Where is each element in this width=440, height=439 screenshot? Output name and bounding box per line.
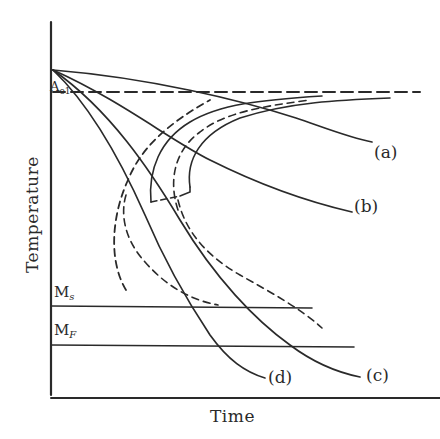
mf-line [51, 345, 354, 347]
curve-label-c: (c) [366, 367, 389, 384]
transformation-finish-curve-outer [114, 100, 210, 290]
y-axis-label: Temperature [24, 156, 41, 273]
curve-label-d: (d) [268, 369, 292, 386]
ms-label: Ms [54, 285, 75, 302]
x-axis-label: Time [210, 408, 255, 425]
ms-line [51, 306, 312, 308]
mf-label: MF [54, 323, 76, 340]
transformation-finish-lower-right [178, 200, 322, 328]
cooling-curve-d [53, 70, 265, 378]
ae1-label: Ae1 [50, 80, 70, 96]
transformation-start-curve-upper [151, 96, 322, 202]
curve-label-b: (b) [354, 198, 378, 215]
transformation-finish-lower-left [124, 195, 218, 305]
cooling-diagram: Ae1 Ms MF (a) (b) (c) (d) Time Temperatu… [0, 0, 440, 439]
curve-label-a: (a) [374, 144, 397, 161]
transformation-start-curve-lower [189, 98, 390, 187]
finish-curve-connector [180, 187, 190, 196]
